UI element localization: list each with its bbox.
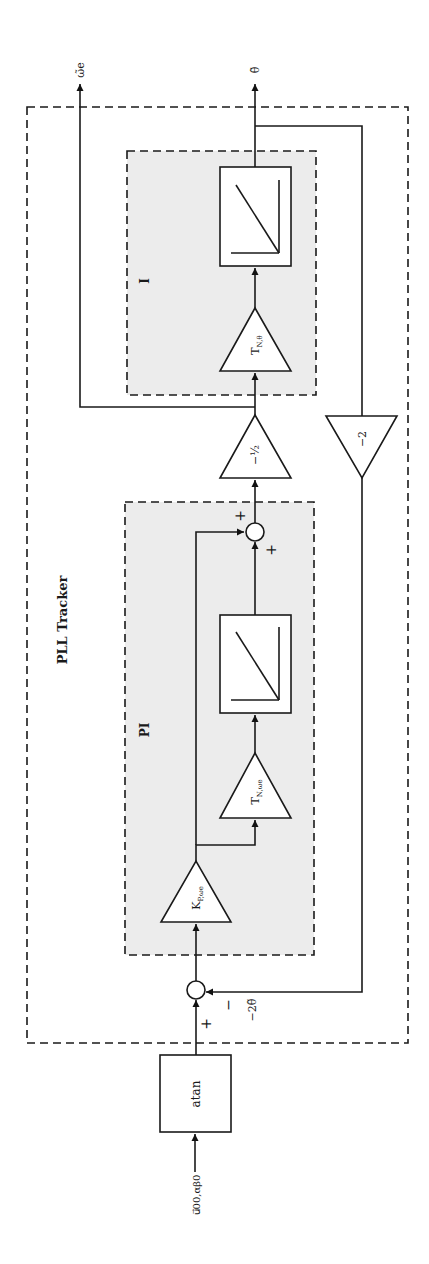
minus2-gain-label: −2 [356, 431, 369, 447]
sum1-plus-sign: + [198, 1018, 214, 1030]
omega-output-label: ω̃e [74, 62, 87, 77]
pi-label: PI [138, 722, 152, 737]
i-label: I [138, 278, 152, 284]
sum-junction-2 [246, 523, 264, 541]
theta-output-label: θ̃ [249, 66, 262, 73]
feedback-signal-label: −2θ̃ [246, 998, 259, 1021]
pi-subsystem-box [125, 502, 314, 955]
sum2-plus-top-sign: + [232, 510, 248, 522]
atan-label: atan [189, 1080, 203, 1107]
sum1-minus-sign: − [220, 999, 236, 1011]
input-signal-label: u⃗00,αβ0 [191, 1175, 202, 1216]
pll-tracker-diagram: PLL Tracker PI I atan KP,ωe TN,ωe TN,θ −… [0, 0, 429, 1264]
pll-tracker-label: PLL Tracker [55, 576, 70, 665]
sum-junction-1 [187, 981, 205, 999]
half-gain-label: −½ [249, 445, 262, 465]
sum2-plus-bottom-sign: + [263, 544, 279, 556]
